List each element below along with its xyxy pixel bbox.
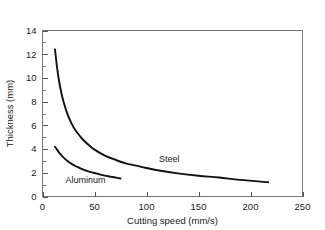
chart-figure: 050100150200250 02468101214 SteelAluminu…	[0, 0, 325, 230]
x-tick-label: 250	[295, 201, 311, 212]
y-tick-label: 0	[31, 191, 36, 202]
y-tick-label: 2	[31, 167, 36, 178]
line-chart: 050100150200250 02468101214 SteelAluminu…	[0, 0, 325, 230]
x-tick-label: 0	[40, 201, 45, 212]
x-tick-label: 200	[243, 201, 259, 212]
x-tick-label: 100	[139, 201, 155, 212]
x-tick-label: 50	[89, 201, 100, 212]
series-label-aluminum: Aluminum	[65, 175, 105, 185]
y-tick-label: 6	[31, 120, 36, 131]
y-tick-label: 10	[26, 72, 37, 83]
x-axis-tick-labels: 050100150200250	[40, 201, 311, 212]
y-axis-title: Thickness (mm)	[4, 80, 15, 148]
y-tick-label: 12	[26, 49, 37, 60]
y-tick-label: 4	[31, 143, 36, 154]
x-axis-title: Cutting speed (mm/s)	[127, 215, 218, 226]
y-tick-label: 14	[26, 25, 37, 36]
plot-frame	[43, 31, 303, 197]
x-tick-label: 150	[191, 201, 207, 212]
y-axis-minor-ticks	[43, 43, 47, 186]
series-curve-aluminum	[55, 147, 121, 179]
series-label-steel: Steel	[159, 154, 180, 164]
y-axis-tick-labels: 02468101214	[26, 25, 37, 202]
x-axis-ticks	[44, 192, 304, 197]
y-tick-label: 8	[31, 96, 36, 107]
